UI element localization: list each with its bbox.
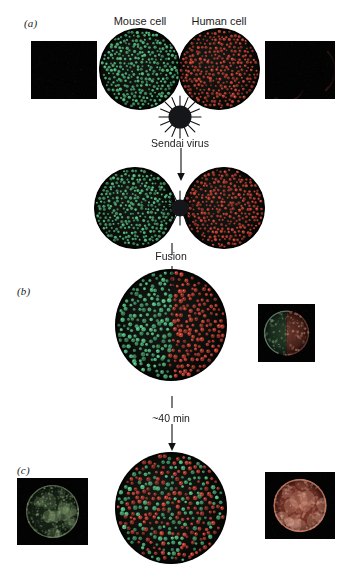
micrograph-canvas xyxy=(258,304,315,362)
label-mouse-cell: Mouse cell xyxy=(100,15,180,27)
virus-body xyxy=(169,106,192,129)
sendai-virus-bridging xyxy=(157,185,203,231)
label-sendai-virus: Sendai virus xyxy=(130,137,230,149)
micrograph-canvas xyxy=(31,41,97,99)
cell-canvas xyxy=(115,452,227,564)
label-fusion: Fusion xyxy=(131,250,211,262)
micrograph-canvas xyxy=(265,472,335,539)
micrograph-heterokaryon-halfred xyxy=(258,304,315,362)
panel-letter-a: (a) xyxy=(24,17,37,29)
virus-body xyxy=(172,200,189,217)
arrow-time-elapsed xyxy=(161,396,183,452)
micrograph-human-antihuman xyxy=(265,41,335,99)
micrograph-heterokaryon-green xyxy=(17,478,88,545)
label-time-elapsed: ~40 min xyxy=(131,412,211,424)
heterokaryon-mixed xyxy=(115,452,227,564)
arrow-virus-to-fusion xyxy=(170,148,192,184)
cell-fusion-figure: (a) (b) (c) Mouse cell Human cell xyxy=(0,0,344,572)
micrograph-heterokaryon-red xyxy=(265,472,335,539)
micrograph-mouse-antihuman xyxy=(31,41,97,99)
panel-letter-c: (c) xyxy=(17,464,30,476)
micrograph-canvas xyxy=(17,478,88,545)
panel-letter-b: (b) xyxy=(17,285,30,297)
label-human-cell: Human cell xyxy=(179,15,259,27)
micrograph-canvas xyxy=(265,41,335,99)
